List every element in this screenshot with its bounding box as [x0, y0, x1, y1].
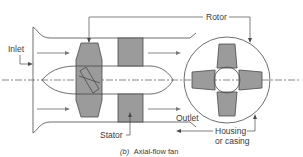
inlet-label: Inlet	[8, 44, 25, 54]
caption-text: Axial-flow fan	[134, 147, 179, 156]
figure-caption: (b) Axial-flow fan	[120, 147, 178, 156]
axial-flow-fan-diagram: Rotor Inlet Stator Outlet Housing or cas…	[0, 0, 303, 157]
flow-arrows	[37, 51, 181, 111]
caption-prefix: (b)	[120, 147, 130, 156]
outlet-label: Outlet	[176, 113, 199, 123]
housing-label-line2: or casing	[215, 136, 250, 146]
housing-label-line1: Housing	[215, 126, 246, 136]
housing-leader-right	[247, 117, 255, 131]
rotor-side-view	[76, 43, 102, 117]
inlet-leader	[20, 55, 29, 64]
stator-label: Stator	[100, 130, 123, 140]
rotor-leader	[87, 17, 252, 43]
rotor-label: Rotor	[206, 12, 227, 22]
